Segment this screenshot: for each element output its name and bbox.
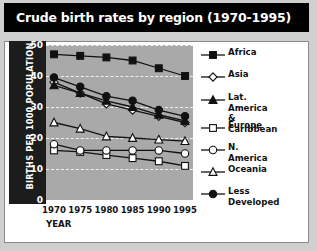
series-africa <box>51 51 189 80</box>
y-tick-label: 40 <box>30 71 43 81</box>
series-asia <box>50 78 189 127</box>
legend-label: Africa <box>228 47 256 58</box>
y-tick-label: 0 <box>37 195 43 205</box>
legend-marker-open-triangle-icon <box>200 164 226 178</box>
y-tick-label: 30 <box>30 102 43 112</box>
legend-label: N. America <box>228 142 268 163</box>
x-axis-label: YEAR <box>46 219 71 229</box>
legend-label: Oceania <box>228 164 267 175</box>
legend-marker-filled-circle-icon <box>200 186 226 200</box>
legend-marker-open-square-icon <box>200 120 226 134</box>
series-oceania <box>50 118 189 144</box>
legend-marker-filled-triangle-icon <box>200 92 226 106</box>
series-n-america <box>50 141 188 158</box>
legend-label: Asia <box>228 69 249 80</box>
legend-label: Less Developed <box>228 186 279 207</box>
plot-svg <box>46 45 193 200</box>
y-axis-band: BIRTHS PER 1000 POPULATION <box>9 41 46 204</box>
title-bar: Crude birth rates by region (1970-1995) <box>4 3 309 32</box>
chart-legend: AfricaAsiaLat. America & CaribbeanEurope… <box>200 47 304 197</box>
series-less-developed <box>50 74 188 120</box>
legend-marker-open-diamond-icon <box>200 69 226 83</box>
x-tick-label: 1995 <box>168 205 202 215</box>
legend-marker-filled-square-icon <box>200 47 226 61</box>
chart-card: Crude birth rates by region (1970-1995) … <box>0 0 317 251</box>
legend-marker-open-circle-icon <box>200 142 226 156</box>
y-tick-label: 20 <box>30 133 43 143</box>
chart-title: Crude birth rates by region (1970-1995) <box>16 10 291 25</box>
plot-area <box>46 45 193 200</box>
y-tick-label: 50 <box>30 40 43 50</box>
legend-label: Europe <box>228 120 262 131</box>
y-tick-label: 10 <box>30 164 43 174</box>
